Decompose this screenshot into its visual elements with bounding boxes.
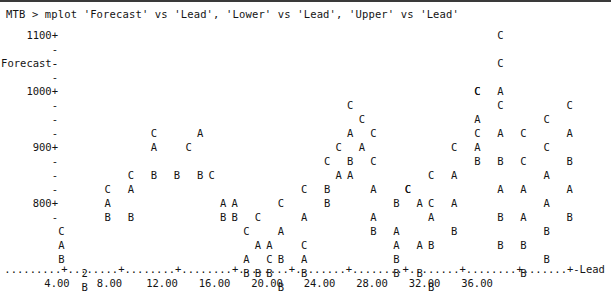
data-point-B: B: [103, 210, 112, 224]
data-point-B: B: [496, 238, 505, 252]
data-point-C: C: [149, 126, 158, 140]
data-point-C: C: [519, 126, 528, 140]
data-point-A: A: [253, 238, 262, 252]
data-point-A: A: [149, 140, 158, 154]
x-axis-tick-labels: 4.008.0012.0016.0020.0024.0028.0032.0036…: [0, 276, 611, 290]
data-point-C: C: [126, 168, 135, 182]
plot-grid: CAB2BCABCABCABBCABCABABCABCABACBCABBCACA…: [55, 24, 611, 274]
data-point-B: B: [149, 168, 158, 182]
x-axis-tick-label: 36.00: [457, 276, 497, 290]
character-scatterplot: 1100+---1000+---900+---800+-Forecast- CA…: [0, 24, 611, 294]
data-point-C: C: [473, 84, 482, 98]
data-point-C: C: [276, 196, 285, 210]
data-point-B: B: [496, 154, 505, 168]
x-axis-tick-label: 32.00: [405, 276, 445, 290]
data-point-A: A: [103, 196, 112, 210]
x-axis-tick-label: 16.00: [195, 276, 235, 290]
data-point-C: C: [542, 140, 551, 154]
data-point-A: A: [196, 126, 205, 140]
data-point-A: A: [57, 238, 66, 252]
data-point-C: C: [253, 210, 262, 224]
data-point-C: C: [369, 154, 378, 168]
data-point-C: C: [496, 98, 505, 112]
data-point-A: A: [369, 182, 378, 196]
data-point-A: A: [346, 168, 355, 182]
data-point-A: A: [230, 196, 239, 210]
data-point-A: A: [473, 140, 482, 154]
data-point-A: A: [496, 182, 505, 196]
x-axis-tick-label: 8.00: [90, 276, 130, 290]
data-point-A: A: [357, 140, 366, 154]
data-point-B: B: [173, 168, 182, 182]
data-point-A: A: [565, 126, 574, 140]
data-point-C: C: [496, 28, 505, 42]
data-point-A: A: [334, 168, 343, 182]
x-axis-tick-label: 12.00: [142, 276, 182, 290]
data-point-C: C: [357, 112, 366, 126]
data-point-A: A: [392, 224, 401, 238]
data-point-B: B: [565, 210, 574, 224]
data-point-B: B: [126, 210, 135, 224]
data-point-A: A: [473, 112, 482, 126]
data-point-C: C: [565, 98, 574, 112]
data-point-B: B: [323, 182, 332, 196]
data-point-A: A: [276, 224, 285, 238]
data-point-C: C: [103, 182, 112, 196]
data-point-A: A: [496, 126, 505, 140]
data-point-A: A: [519, 182, 528, 196]
data-point-A: A: [450, 196, 459, 210]
x-axis-tick-label: 24.00: [300, 276, 340, 290]
x-axis-tick-label: 4.00: [37, 276, 77, 290]
data-point-A: A: [542, 168, 551, 182]
data-point-B: B: [565, 154, 574, 168]
x-axis-tick-label: 28.00: [352, 276, 392, 290]
data-point-A: A: [450, 168, 459, 182]
data-point-C: C: [427, 196, 436, 210]
data-point-C: C: [207, 168, 216, 182]
data-point-B: B: [346, 154, 355, 168]
data-point-B: B: [323, 196, 332, 210]
y-axis-tick-label: 1100+: [26, 28, 58, 42]
data-point-B: B: [392, 196, 401, 210]
data-point-A: A: [415, 238, 424, 252]
data-point-B: B: [219, 210, 228, 224]
data-point-B: B: [230, 210, 239, 224]
data-point-A: A: [519, 210, 528, 224]
data-point-A: A: [392, 238, 401, 252]
data-point-C: C: [496, 56, 505, 70]
data-point-C: C: [450, 140, 459, 154]
data-point-B: B: [473, 154, 482, 168]
data-point-C: C: [300, 238, 309, 252]
data-point-B: B: [369, 224, 378, 238]
data-point-A: A: [300, 210, 309, 224]
x-axis-tick-label: 20.00: [247, 276, 287, 290]
data-point-A: A: [346, 126, 355, 140]
data-point-C: C: [346, 98, 355, 112]
data-point-B: B: [450, 224, 459, 238]
data-point-C: C: [57, 224, 66, 238]
data-point-C: C: [300, 182, 309, 196]
data-point-A: A: [265, 238, 274, 252]
data-point-C: C: [323, 154, 332, 168]
data-point-B: B: [496, 210, 505, 224]
data-point-A: A: [542, 196, 551, 210]
y-axis-title: Forecast-: [1, 56, 58, 70]
x-axis-rule: .........+........+........+........+...…: [4, 262, 611, 276]
data-point-C: C: [369, 126, 378, 140]
data-point-C: C: [184, 140, 193, 154]
data-point-C: C: [242, 224, 251, 238]
y-axis-tick-label: 1000+: [26, 84, 58, 98]
data-point-C: C: [473, 126, 482, 140]
data-point-A: A: [427, 210, 436, 224]
data-point-C: C: [334, 140, 343, 154]
data-point-A: A: [565, 182, 574, 196]
data-point-A: A: [219, 196, 228, 210]
data-point-C: C: [519, 154, 528, 168]
data-point-A: A: [415, 196, 424, 210]
data-point-A: A: [126, 182, 135, 196]
data-point-B: B: [542, 224, 551, 238]
data-point-A: A: [369, 210, 378, 224]
data-point-B: B: [519, 238, 528, 252]
data-point-C: C: [404, 182, 413, 196]
data-point-B: B: [427, 238, 436, 252]
